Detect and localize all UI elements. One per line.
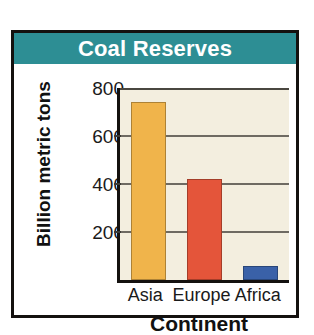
plot-wrapper: 200400600800 AsiaEuropeAfrica Continent [69,64,296,321]
chart-figure: Coal Reserves Billion metric tons 200400… [11,30,299,318]
x-axis-label: Continent [99,312,299,335]
y-axis-label: Billion metric tons [33,79,55,249]
chart-title-band: Coal Reserves [14,33,296,64]
y-tick-mark [114,183,121,185]
x-tick-labels: AsiaEuropeAfrica [117,286,293,312]
bar [187,179,222,280]
y-tick-mark [114,231,121,233]
x-tick-label: Africa [218,286,298,304]
gridline [120,88,289,90]
plot-area [117,88,289,283]
chart-title: Coal Reserves [78,38,232,60]
y-tick-label: 800 [64,79,124,98]
bar [131,102,166,280]
y-tick-mark [114,135,121,137]
bar [243,266,278,280]
